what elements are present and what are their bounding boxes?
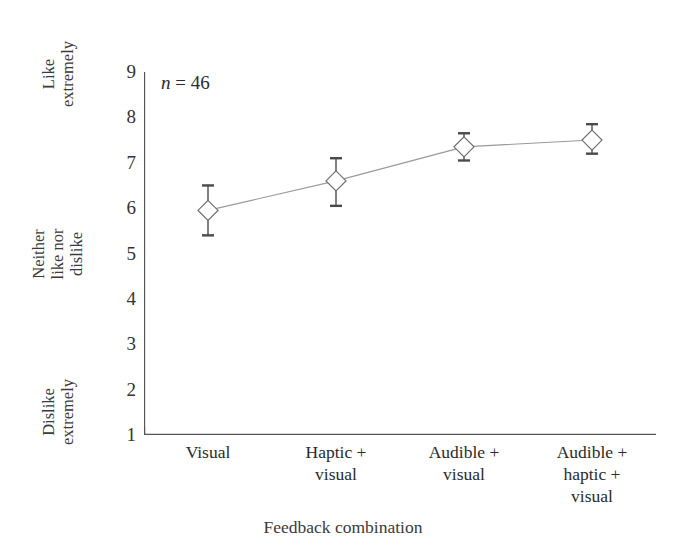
chart-canvas xyxy=(144,72,656,435)
y-axis-tick-label: 4 xyxy=(114,289,136,308)
category-label-line: Haptic + xyxy=(272,441,400,463)
axes xyxy=(144,72,656,435)
data-series xyxy=(198,124,602,235)
category-label-line: visual xyxy=(400,463,528,485)
anchor-dislike-line-1: Dislike xyxy=(39,342,58,482)
data-point-marker[interactable] xyxy=(198,200,218,220)
data-point-marker[interactable] xyxy=(582,130,602,150)
anchor-like-line-2: extremely xyxy=(58,4,77,144)
sample-size-value: = 46 xyxy=(171,72,210,93)
category-label-line: visual xyxy=(528,485,656,507)
y-axis-tick-label: 9 xyxy=(114,62,136,81)
x-axis-category-3: Audible +visual xyxy=(400,441,528,521)
data-point-marker[interactable] xyxy=(454,137,474,157)
data-point-marker[interactable] xyxy=(326,171,346,191)
anchor-like-line-1: Like xyxy=(39,4,58,144)
category-label-line: visual xyxy=(272,463,400,485)
y-axis-tick-label: 7 xyxy=(114,153,136,172)
anchor-neither-line-1: Neither xyxy=(29,172,48,336)
anchor-dislike-line-2: extremely xyxy=(58,342,77,482)
plot-area xyxy=(144,72,656,435)
y-axis-tick-labels: 123456789 xyxy=(110,0,136,556)
y-axis-tick-label: 2 xyxy=(114,380,136,399)
y-axis-tick-label: 5 xyxy=(114,244,136,263)
category-label-line: haptic + xyxy=(528,463,656,485)
series-line xyxy=(208,140,592,210)
y-anchor-dislike-extremely: Dislike extremely xyxy=(39,342,99,482)
series-0 xyxy=(198,124,602,235)
category-label-line: Visual xyxy=(144,441,272,463)
chart-figure: Like extremely Neither like nor dislike … xyxy=(0,0,686,556)
sample-size-symbol: n xyxy=(161,72,171,93)
y-anchor-like-extremely: Like extremely xyxy=(39,4,99,144)
x-axis-category-2: Haptic +visual xyxy=(272,441,400,521)
anchor-neither-line-2: like nor xyxy=(48,172,67,336)
y-anchor-neither-like-nor-dislike: Neither like nor dislike xyxy=(29,172,109,336)
y-axis-tick-label: 6 xyxy=(114,198,136,217)
category-label-line: Audible + xyxy=(400,441,528,463)
category-label-line: Audible + xyxy=(528,441,656,463)
x-axis-title: Feedback combination xyxy=(0,517,686,538)
x-axis-category-4: Audible +haptic +visual xyxy=(528,441,656,521)
sample-size-annotation: n = 46 xyxy=(161,72,210,94)
y-axis-tick-label: 3 xyxy=(114,334,136,353)
y-axis-tick-label: 1 xyxy=(114,425,136,444)
x-axis-category-labels: VisualHaptic +visualAudible +visualAudib… xyxy=(144,441,656,521)
x-axis-category-1: Visual xyxy=(144,441,272,521)
anchor-neither-line-3: dislike xyxy=(67,172,86,336)
y-axis-tick-label: 8 xyxy=(114,107,136,126)
